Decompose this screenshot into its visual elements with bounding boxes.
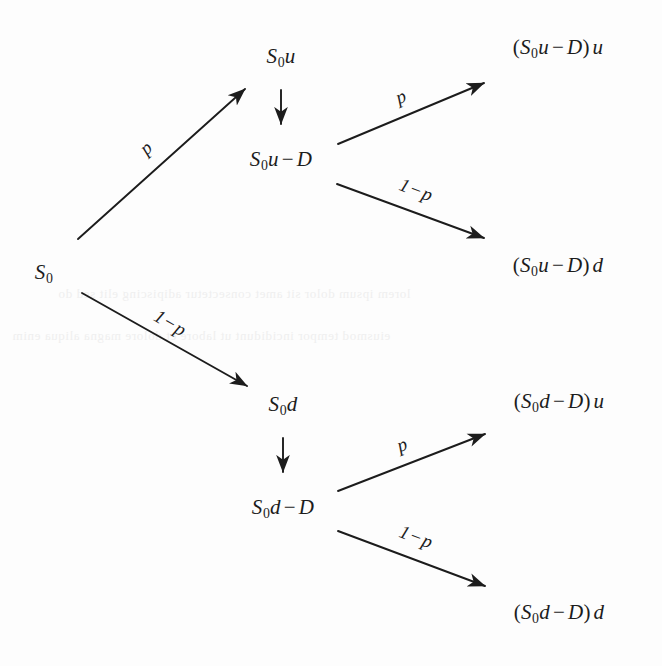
node-down_dn: (S0d−D)d <box>514 600 605 627</box>
node-up_dn: (S0u−D)d <box>513 253 604 280</box>
node-up: S0u <box>266 44 295 71</box>
edge-downex-downup <box>338 434 485 491</box>
edge-upex-upup <box>338 83 484 144</box>
lbl-root-up: p <box>135 137 157 160</box>
lbl-downex-downdn: 1−p <box>396 521 435 554</box>
edge-root-up <box>78 89 245 239</box>
node-down: S0d <box>268 392 297 419</box>
diagram-canvas: lorem ipsum dolor sit amet consectetur a… <box>0 0 662 666</box>
node-down_ex: S0d−D <box>252 495 314 522</box>
node-root: S0 <box>35 260 53 287</box>
node-up_ex: S0u−D <box>250 147 312 174</box>
background-bleed-through: eiusmod tempor incididunt ut labore et d… <box>12 328 390 344</box>
lbl-upex-upup: p <box>392 85 409 109</box>
node-up_up: (S0u−D)u <box>513 35 604 62</box>
node-down_up: (S0d−D)u <box>514 389 605 416</box>
lbl-downex-downup: p <box>394 433 411 457</box>
background-bleed-through: lorem ipsum dolor sit amet consectetur a… <box>58 286 411 302</box>
lbl-upex-updn: 1−p <box>396 174 435 207</box>
